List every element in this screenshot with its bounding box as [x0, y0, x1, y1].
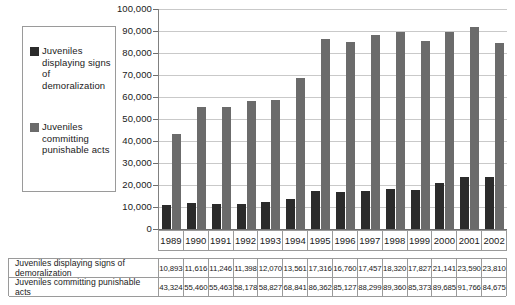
table-row-label: Juveniles committing punishable acts — [9, 278, 159, 296]
y-axis-tick-label: 90,000 — [122, 26, 152, 36]
y-axis-tick-label: 30,000 — [122, 158, 152, 168]
table-row: Juveniles displaying signs of demoraliza… — [9, 259, 506, 278]
legend-swatch-demoralization — [30, 47, 39, 56]
table-cell: 58,827 — [258, 278, 283, 296]
legend-label-demoralization: Juveniles displaying signs of demoraliza… — [42, 45, 115, 91]
table-cell: 58,178 — [234, 278, 259, 296]
bar — [212, 204, 221, 229]
bar — [172, 134, 181, 229]
y-axis-tick-label: 20,000 — [122, 180, 152, 190]
bar — [371, 35, 380, 229]
x-axis-year-cell: 1990 — [184, 231, 209, 250]
bar-group — [159, 9, 184, 229]
table-cell: 16,760 — [333, 259, 358, 277]
bar — [485, 177, 494, 229]
bar — [296, 78, 305, 229]
table-row-cells: 10,89311,61611,24611,39812,07013,56117,3… — [159, 259, 506, 277]
bar — [311, 191, 320, 229]
x-axis-year-cell: 1997 — [358, 231, 383, 250]
table-cell: 89,360 — [383, 278, 408, 296]
table-row-cells: 43,32455,46055,46358,17858,82768,84186,3… — [159, 278, 506, 296]
y-axis-tick-label: 40,000 — [122, 136, 152, 146]
table-cell: 85,373 — [408, 278, 433, 296]
table-cell: 68,841 — [283, 278, 308, 296]
legend-label-punishable-acts: Juveniles committing punishable acts — [42, 121, 115, 156]
table-cell: 86,362 — [308, 278, 333, 296]
x-axis-year-cell: 1991 — [209, 231, 234, 250]
bar-group — [258, 9, 283, 229]
bar — [237, 204, 246, 229]
bar — [445, 32, 454, 229]
x-axis-year-cell: 1994 — [283, 231, 308, 250]
table-cell: 17,316 — [308, 259, 333, 277]
bar — [361, 191, 370, 229]
bar — [460, 177, 469, 229]
bar — [435, 183, 444, 230]
table-cell: 17,827 — [408, 259, 433, 277]
x-axis-year-cell: 1996 — [333, 231, 358, 250]
table-cell: 91,766 — [457, 278, 482, 296]
y-axis-labels: 100,00090,00080,00070,00060,00050,00040,… — [118, 9, 156, 230]
table-cell: 55,460 — [184, 278, 209, 296]
bar-group — [283, 9, 308, 229]
bar — [222, 107, 231, 229]
y-axis-tick — [153, 141, 158, 142]
y-axis-tick — [153, 185, 158, 186]
y-axis-tick-label: 100,000 — [117, 4, 152, 14]
table-cell: 23,810 — [482, 259, 506, 277]
table-cell: 10,893 — [159, 259, 184, 277]
x-axis-year-cell: 2002 — [482, 231, 507, 250]
table-row: Juveniles committing punishable acts43,3… — [9, 278, 506, 297]
y-axis-tick-label: 70,000 — [122, 70, 152, 80]
bar — [421, 41, 430, 229]
plot-area — [158, 9, 507, 230]
chart-legend: Juveniles displaying signs of demoraliza… — [22, 26, 116, 192]
bar — [271, 100, 280, 229]
table-cell: 12,070 — [258, 259, 283, 277]
table-cell: 85,127 — [333, 278, 358, 296]
table-cell: 55,463 — [209, 278, 234, 296]
table-cell: 84,675 — [482, 278, 506, 296]
bar — [162, 205, 171, 229]
table-cell: 88,299 — [358, 278, 383, 296]
bar-group — [209, 9, 234, 229]
y-axis-tick-label: 80,000 — [122, 48, 152, 58]
y-axis-tick — [153, 119, 158, 120]
y-axis-tick — [153, 163, 158, 164]
bar — [411, 190, 420, 229]
x-axis-year-cell: 1998 — [383, 231, 408, 250]
y-axis-tick — [153, 97, 158, 98]
bar-groups — [159, 9, 507, 229]
y-axis-tick — [153, 31, 158, 32]
y-axis-tick — [153, 75, 158, 76]
data-table: Juveniles displaying signs of demoraliza… — [8, 258, 507, 296]
bar-group — [408, 9, 433, 229]
bar-group — [457, 9, 482, 229]
table-cell: 43,324 — [159, 278, 184, 296]
x-axis-year-cell: 1992 — [234, 231, 259, 250]
bar-group — [383, 9, 408, 229]
bar-group — [184, 9, 209, 229]
bar — [346, 42, 355, 229]
bar — [321, 39, 330, 229]
table-cell: 11,616 — [184, 259, 209, 277]
bar — [197, 107, 206, 229]
y-axis-tick — [153, 207, 158, 208]
bar — [286, 199, 295, 229]
table-cell: 21,141 — [432, 259, 457, 277]
table-cell: 11,246 — [209, 259, 234, 277]
bar — [247, 101, 256, 229]
x-axis-year-cell: 1989 — [159, 231, 184, 250]
bar-group — [333, 9, 358, 229]
x-axis-year-cell: 1999 — [408, 231, 433, 250]
x-axis-year-cell: 2000 — [432, 231, 457, 250]
chart-page: Juveniles displaying signs of demoraliza… — [0, 0, 515, 305]
bar — [261, 202, 270, 229]
bar-group — [234, 9, 259, 229]
bar-group — [358, 9, 383, 229]
y-axis-tick — [153, 9, 158, 10]
bar — [495, 43, 504, 229]
table-cell: 13,561 — [283, 259, 308, 277]
legend-item-punishable-acts: Juveniles committing punishable acts — [30, 121, 115, 156]
x-axis-year-cell: 2001 — [457, 231, 482, 250]
